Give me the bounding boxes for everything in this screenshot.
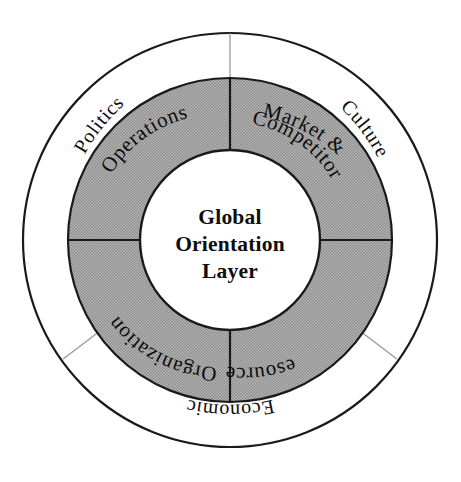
center-label-line2: Orientation (175, 232, 285, 256)
global-orientation-wheel: Operations Market & Competitor Resources… (0, 0, 461, 482)
diagram-root: Operations Market & Competitor Resources… (0, 0, 461, 482)
center-label-line3: Layer (202, 259, 258, 283)
center-label-line1: Global (198, 205, 261, 229)
